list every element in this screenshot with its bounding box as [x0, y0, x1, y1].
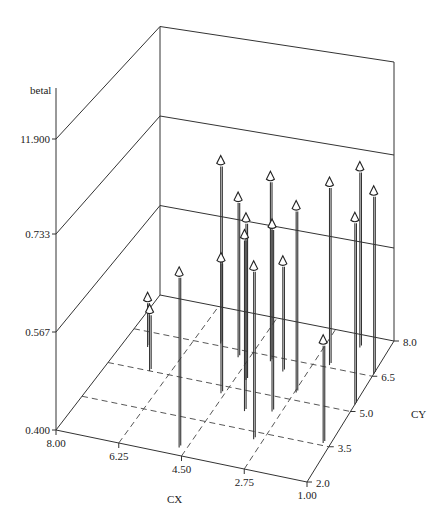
data-stems: [144, 155, 378, 447]
plot-canvas: 0.4000.5670.73311.9008.006.254.502.751.0…: [0, 0, 434, 516]
data-marker-icon: [326, 177, 334, 187]
back-wall-level-line: [160, 27, 394, 63]
data-marker-icon: [144, 292, 152, 302]
left-wall-level-line: [56, 27, 160, 140]
x-tick-label: 8.00: [46, 437, 66, 449]
x-tick-label: 6.25: [109, 450, 129, 462]
back-wall-level-line: [160, 116, 394, 155]
data-marker-icon: [242, 213, 250, 223]
y-tick-label: 5.0: [360, 407, 374, 419]
x-tick-label: 4.50: [172, 463, 192, 475]
left-wall-level-line: [56, 206, 160, 333]
data-marker-icon: [268, 219, 276, 229]
axis-ticks: 0.4000.5670.73311.9008.006.254.502.751.0…: [20, 133, 417, 501]
x-tick-label: 1.00: [297, 489, 317, 501]
data-marker-icon: [292, 201, 300, 211]
y-grid-line: [82, 396, 329, 447]
z-tick-label: 11.900: [20, 133, 50, 145]
z-tick-label: 0.733: [25, 228, 50, 240]
data-marker-icon: [217, 253, 225, 263]
back-wall-level-line: [160, 295, 394, 341]
y-tick-label: 2.0: [316, 477, 330, 489]
y-tick-label: 8.0: [403, 336, 417, 348]
back-wall-level-line: [160, 206, 394, 249]
data-marker-icon: [217, 155, 225, 165]
left-wall-level-line: [56, 116, 160, 234]
y-grid-line: [108, 363, 351, 412]
data-marker-icon: [250, 261, 258, 271]
chart-3d-stem-plot: 0.4000.5670.73311.9008.006.254.502.751.0…: [0, 0, 434, 516]
data-marker-icon: [266, 171, 274, 181]
y-tick-label: 3.5: [338, 442, 352, 454]
back-walls: [56, 27, 394, 431]
data-marker-icon: [319, 335, 327, 345]
z-tick-label: 0.567: [25, 326, 50, 338]
floor-grid: [56, 307, 394, 483]
x-axis-label: CX: [167, 493, 182, 505]
z-tick-label: 0.400: [25, 424, 50, 436]
y-axis-label: CY: [411, 408, 426, 420]
data-marker-icon: [356, 162, 364, 172]
data-marker-icon: [175, 267, 183, 277]
data-marker-icon: [279, 256, 287, 266]
z-axis-label: betal: [30, 84, 51, 96]
data-marker-icon: [370, 186, 378, 196]
y-tick-label: 6.5: [381, 371, 395, 383]
data-marker-icon: [234, 192, 242, 202]
x-tick-label: 2.75: [235, 476, 255, 488]
data-marker-icon: [351, 212, 359, 222]
